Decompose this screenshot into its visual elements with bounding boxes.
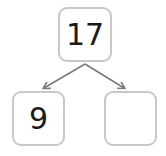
part-left-box: 9 <box>12 91 65 146</box>
whole-value: 17 <box>66 17 104 52</box>
arrow-left <box>44 64 85 88</box>
whole-box: 17 <box>58 7 112 62</box>
arrow-right <box>85 64 124 88</box>
part-right-box[interactable] <box>104 91 157 146</box>
part-left-value: 9 <box>29 101 48 136</box>
